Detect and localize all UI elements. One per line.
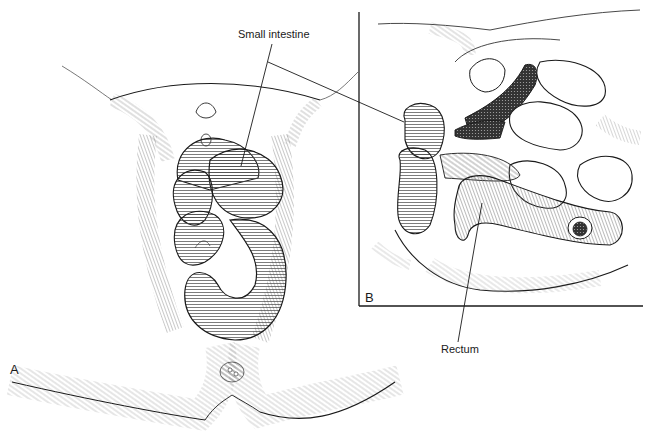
panel-a-label: A — [10, 362, 19, 377]
label-rectum: Rectum — [441, 343, 479, 355]
panel-a-drawing — [10, 66, 400, 420]
panel-b-drawing — [359, 10, 643, 306]
illustration — [0, 0, 654, 439]
figure-canvas: Small intestine Rectum A B — [0, 0, 654, 439]
label-small-intestine: Small intestine — [238, 28, 310, 40]
panel-b-label: B — [365, 290, 374, 305]
leader-small-intestine-a — [241, 44, 272, 166]
